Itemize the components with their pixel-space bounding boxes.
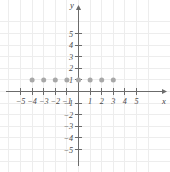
y-tick-label: 5 (69, 30, 73, 39)
y-tick-label: 4 (69, 41, 73, 50)
y-tick-label: −4 (63, 134, 73, 143)
y-tick-label: 2 (69, 64, 73, 73)
x-tick-label: 1 (88, 97, 92, 106)
x-tick-label: −3 (39, 97, 49, 106)
y-tick-label: 1 (69, 76, 73, 85)
y-tick-label: −3 (63, 122, 73, 131)
x-tick-label: 2 (100, 97, 104, 106)
data-point (99, 77, 104, 82)
axes (6, 5, 167, 166)
y-tick-label: 3 (68, 53, 73, 62)
x-tick-label: −2 (50, 97, 60, 106)
coordinate-plane-chart: −5−4−3−2−112345−5−4−3−2−112345 xy (0, 0, 170, 172)
data-point (111, 77, 116, 82)
x-axis-arrow-icon (162, 89, 167, 94)
axis-names: xy (69, 0, 166, 106)
data-point (76, 77, 81, 82)
data-point (41, 77, 46, 82)
x-tick-label: 3 (110, 97, 115, 106)
data-point (64, 77, 69, 82)
grid-lines (0, 0, 170, 172)
x-tick-label: 4 (123, 97, 127, 106)
y-axis-label: y (69, 0, 74, 10)
chart-svg: −5−4−3−2−112345−5−4−3−2−112345 xy (0, 0, 170, 172)
data-point (88, 77, 93, 82)
x-axis-label: x (161, 96, 166, 106)
y-tick-label: −1 (63, 99, 73, 108)
x-tick-label: −4 (27, 97, 37, 106)
y-tick-label: −5 (63, 146, 73, 155)
x-tick-label: −5 (16, 97, 26, 106)
data-point (30, 77, 35, 82)
x-tick-label: 5 (134, 97, 138, 106)
y-axis-arrow-icon (76, 5, 81, 10)
y-tick-label: −2 (63, 111, 73, 120)
data-point (53, 77, 58, 82)
